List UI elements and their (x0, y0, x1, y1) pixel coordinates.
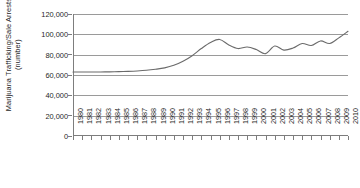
x-axis-tick-mark (311, 136, 312, 140)
x-axis-tick-mark (293, 136, 294, 140)
x-axis-tick-label: 2006 (314, 108, 323, 142)
x-axis-tick-label: 2007 (324, 108, 333, 142)
x-axis-tick-label: 1994 (204, 108, 213, 142)
x-axis-tick-mark (321, 136, 322, 140)
x-axis-tick-label: 2000 (259, 108, 268, 142)
x-axis-tick-label: 1996 (223, 108, 232, 142)
x-axis-tick-label: 1984 (113, 108, 122, 142)
x-axis-tick-label: 1997 (232, 108, 241, 142)
x-axis-tick-mark (348, 136, 349, 140)
x-axis-tick-label: 2008 (333, 108, 342, 142)
x-axis-tick-mark (266, 136, 267, 140)
x-axis-tick-label: 1998 (241, 108, 250, 142)
x-axis-tick-mark (110, 136, 111, 140)
x-axis-tick-label: 2004 (296, 108, 305, 142)
x-axis-tick-mark (247, 136, 248, 140)
x-axis-tick-mark (174, 136, 175, 140)
y-axis-tick-mark (68, 115, 72, 116)
y-axis-tick-label: 120,000 (41, 10, 68, 19)
x-axis-tick-label: 2005 (305, 108, 314, 142)
x-axis-tick-mark (238, 136, 239, 140)
x-axis-tick-label: 1990 (168, 108, 177, 142)
x-axis-tick-mark (275, 136, 276, 140)
y-axis-tick-mark (68, 34, 72, 35)
y-axis-tick-mark (68, 95, 72, 96)
x-axis-tick-label: 1991 (177, 108, 186, 142)
x-axis-tick-mark (256, 136, 257, 140)
x-axis-tick-label: 1982 (94, 108, 103, 142)
x-axis-tick-label: 2001 (269, 108, 278, 142)
x-axis-tick-label: 1985 (122, 108, 131, 142)
x-axis-tick-mark (211, 136, 212, 140)
x-axis-tick-mark (156, 136, 157, 140)
x-axis-tick-mark (284, 136, 285, 140)
x-axis-tick-label: 1992 (186, 108, 195, 142)
y-axis-tick-label: 20,000 (45, 111, 68, 120)
y-axis-tick-label: 80,000 (45, 50, 68, 59)
x-axis-tick-mark (119, 136, 120, 140)
x-axis-tick-mark (302, 136, 303, 140)
x-axis-tick-mark (73, 136, 74, 140)
x-axis-tick-mark (82, 136, 83, 140)
x-axis-tick-label: 2002 (278, 108, 287, 142)
y-axis-tick-mark (68, 136, 72, 137)
y-axis-title: Marijuana Trafficking/Sale Arrests (numb… (5, 0, 22, 125)
y-axis-tick-label: 100,000 (41, 30, 68, 39)
x-axis-tick-mark (101, 136, 102, 140)
x-axis-tick-mark (91, 136, 92, 140)
x-axis-tick-label: 1986 (131, 108, 140, 142)
x-axis-tick-label: 1999 (250, 108, 259, 142)
x-axis-tick-label: 2003 (287, 108, 296, 142)
y-axis-tick-label: 60,000 (45, 71, 68, 80)
x-axis-tick-label: 1995 (214, 108, 223, 142)
x-axis-tick-label: 1987 (140, 108, 149, 142)
x-axis-tick-label: 1993 (195, 108, 204, 142)
x-axis-tick-label: 1981 (85, 108, 94, 142)
x-axis-tick-mark (128, 136, 129, 140)
x-axis-tick-labels: 1980198119821983198419851986198719881989… (73, 136, 348, 188)
x-axis-tick-mark (137, 136, 138, 140)
x-axis-tick-mark (339, 136, 340, 140)
y-axis-tick-mark (68, 14, 72, 15)
x-axis-tick-mark (146, 136, 147, 140)
x-axis-tick-mark (165, 136, 166, 140)
x-axis-tick-mark (220, 136, 221, 140)
x-axis-tick-label: 2009 (342, 108, 351, 142)
x-axis-tick-label: 1983 (104, 108, 113, 142)
x-axis-tick-mark (229, 136, 230, 140)
y-axis-tick-label: 40,000 (45, 91, 68, 100)
x-axis-tick-mark (183, 136, 184, 140)
x-axis-tick-mark (201, 136, 202, 140)
x-axis-tick-label: 1980 (76, 108, 85, 142)
x-axis-tick-label: 1989 (159, 108, 168, 142)
y-axis-tick-mark (68, 54, 72, 55)
x-axis-tick-mark (330, 136, 331, 140)
x-axis-tick-mark (192, 136, 193, 140)
x-axis-tick-label: 1988 (149, 108, 158, 142)
y-axis-tick-labels: 120,000100,00080,00060,00040,00020,0000 (28, 0, 72, 188)
x-axis-tick-label: 2010 (351, 108, 360, 142)
y-axis-tick-label: 0 (64, 132, 68, 141)
y-axis-tick-mark (68, 75, 72, 76)
